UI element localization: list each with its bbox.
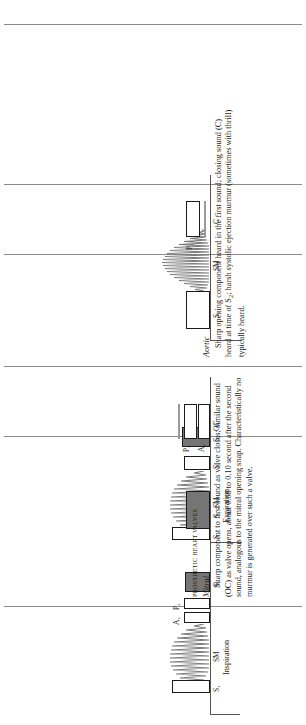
aortic-event-bar-p2 (186, 201, 200, 237)
oc-event-bar-oc (178, 404, 180, 439)
aortic-line-1: Sharp opening component heard in the fir… (214, 132, 223, 348)
aortic-paragraph: Sharp opening component heard in the fir… (214, 107, 248, 357)
aortic-s2-subscript: 2 (227, 295, 234, 298)
event-bar-s1 (172, 680, 210, 693)
column-rule-6 (4, 24, 302, 25)
event-bar-a2 (184, 612, 210, 623)
label-p2-inspiration: P₂ (173, 603, 181, 610)
phono-left-stem (210, 714, 240, 715)
aortic-subheading: Aortic (202, 107, 213, 357)
label-a2-inspiration: A₂ (173, 617, 181, 625)
aortic-line-2-post: ; harsh systolic ejection murmur (224, 188, 233, 295)
figure-page: S₁ SM Inspiration A₂ P₂ S₃ S₁ SM Expirat… (0, 0, 306, 725)
rotated-page-canvas: S₁ SM Inspiration A₂ P₂ S₃ S₁ SM Expirat… (0, 0, 306, 725)
event-murmur-sm (168, 624, 210, 680)
label-sm-inspiration: SM (213, 651, 221, 662)
mitral-paragraph: Sharp component to first sound as valve … (213, 373, 255, 597)
aortic-text-block: Aortic Sharp opening component heard in … (202, 107, 247, 357)
prosthetic-heart-valves-text-block: PROSTHETIC HEART VALVES Mitral Sharp com… (190, 373, 256, 597)
label-inspiration-phase: Inspiration (223, 640, 231, 675)
mitral-subheading: Mitral (202, 373, 213, 597)
label-s1-inspiration: S₁ (213, 685, 221, 692)
column-rule-3 (4, 366, 302, 367)
aortic-label-p2: P₂ (186, 243, 194, 250)
event-bar-p2 (184, 598, 210, 609)
section-heading: PROSTHETIC HEART VALVES (190, 373, 201, 597)
